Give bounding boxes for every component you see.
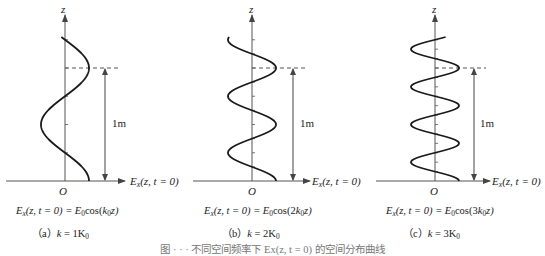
horizontal-axis-label-a: Ex(z, t = 0) <box>130 176 179 187</box>
formula-lhs-args: (z, t = 0) = <box>26 205 75 216</box>
formula-lhs-args: (z, t = 0) = <box>396 205 445 216</box>
formula-b: Ex(z, t = 0) = E0cos(2k0z) <box>204 206 312 217</box>
caption-eq: = 3K <box>432 228 456 239</box>
origin-label-b: O <box>248 186 256 197</box>
formula-z: z) <box>486 205 494 216</box>
z-axis-label-c: z <box>432 4 436 15</box>
formula-lhs-args: (z, t = 0) = <box>214 205 263 216</box>
origin-label-a: O <box>59 186 67 197</box>
axis-e-symbol: E <box>492 175 499 187</box>
length-label-c: 1m <box>480 118 494 129</box>
length-label-a: 1m <box>112 118 126 129</box>
formula-c: Ex(z, t = 0) = E0cos(3k0z) <box>386 206 494 217</box>
length-label-b: 1m <box>300 118 314 129</box>
horizontal-axis-label-b: Ex(z, t = 0) <box>312 176 361 187</box>
caption-sub: 0 <box>276 232 280 241</box>
axis-e-args: (z, t = 0) <box>140 175 179 187</box>
origin-label-c: O <box>430 186 438 197</box>
caption-prefix: （a） <box>32 228 57 239</box>
caption-eq: = 2K <box>252 228 276 239</box>
caption-prefix: （c） <box>403 228 428 239</box>
caption-sub: 0 <box>456 232 460 241</box>
formula-z: z) <box>304 205 312 216</box>
formula-cos: cos(3 <box>455 205 478 216</box>
caption-a: （a）k = 1K0 <box>32 229 89 240</box>
axis-e-symbol: E <box>130 175 137 187</box>
caption-sub: 0 <box>85 232 89 241</box>
formula-a: Ex(z, t = 0) = E0cos(k0z) <box>16 206 118 217</box>
axis-e-args: (z, t = 0) <box>502 175 541 187</box>
figure-caption: 图 · · · 不同空间频率下 Ex(z, t = 0) 的空间分布曲线 <box>0 245 545 256</box>
formula-cos: cos(2 <box>273 205 296 216</box>
z-axis-label-b: z <box>249 4 253 15</box>
caption-prefix: （b） <box>222 228 247 239</box>
axis-e-args: (z, t = 0) <box>322 175 361 187</box>
formula-z: z) <box>111 205 119 216</box>
horizontal-axis-label-c: Ex(z, t = 0) <box>492 176 541 187</box>
caption-c: （c）k = 3K0 <box>403 229 460 240</box>
z-axis-label-a: z <box>61 4 65 15</box>
caption-b: （b）k = 2K0 <box>222 229 280 240</box>
caption-eq: = 1K <box>61 228 85 239</box>
axis-e-symbol: E <box>312 175 319 187</box>
formula-cos: cos( <box>85 205 103 216</box>
